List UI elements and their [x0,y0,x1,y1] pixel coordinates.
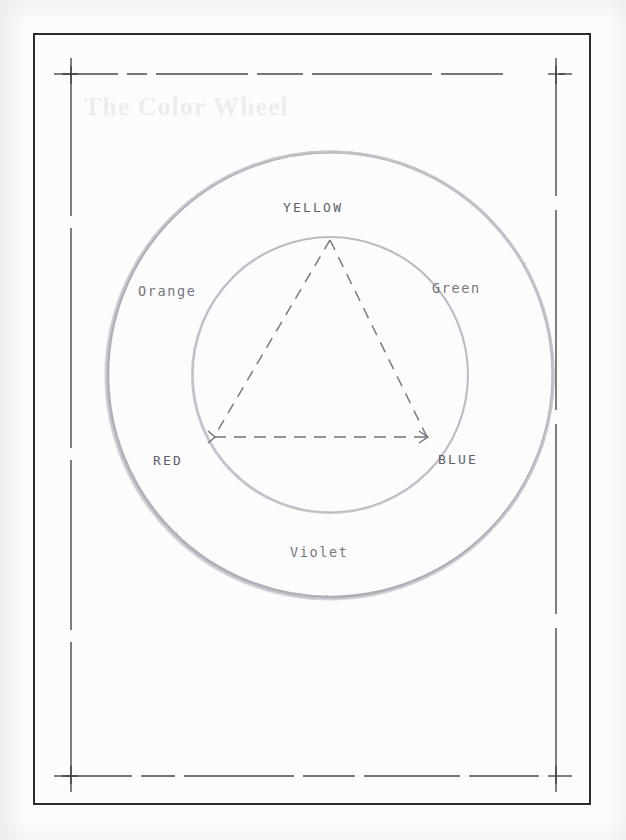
label-violet: Violet [290,544,348,560]
label-yellow: YELLOW [283,200,343,215]
triangle-edge-yellow-red [214,240,330,437]
corner-registration-marks [54,58,572,792]
inner-circle [192,237,468,513]
label-orange: Orange [138,283,196,299]
color-wheel-artwork [0,0,626,840]
label-blue: BLUE [438,452,478,467]
label-red: RED [153,453,183,468]
label-green: Green [432,280,481,296]
crop-guide-rectangle [54,58,572,792]
triangle-edge-yellow-blue [330,240,427,437]
outer-circle [106,152,554,600]
diagram-page: The Color Wheel [0,0,626,840]
